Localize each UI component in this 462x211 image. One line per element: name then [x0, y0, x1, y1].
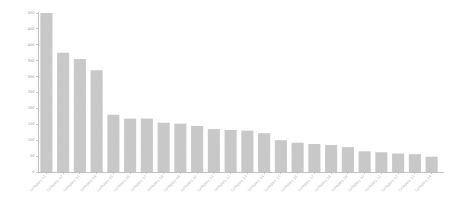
x-tick-label: Category 05 — [96, 174, 114, 192]
bar — [158, 123, 170, 172]
y-tick-label: 50 — [30, 154, 35, 158]
y-axis: 050100150200250300350400450500 — [28, 11, 38, 174]
y-tick-label: 0 — [32, 170, 35, 174]
x-tick-label: Category 02 — [46, 174, 64, 192]
bar — [275, 140, 287, 172]
x-tick-label: Category 19 — [331, 174, 349, 192]
x-axis — [38, 172, 444, 174]
x-tick-label: Category 20 — [347, 174, 365, 192]
bar — [426, 157, 438, 172]
bar — [292, 143, 304, 172]
x-tick-label: Category 16 — [280, 174, 298, 192]
bar — [208, 129, 220, 172]
bar — [191, 126, 203, 172]
x-tick-label: Category 08 — [146, 174, 164, 192]
bar — [325, 145, 337, 172]
bar — [124, 119, 136, 172]
x-tick-label: Category 15 — [264, 174, 282, 192]
y-tick-label: 200 — [28, 106, 36, 110]
y-tick-label: 300 — [28, 75, 36, 79]
bar — [225, 130, 237, 172]
y-tick-label: 150 — [28, 122, 36, 126]
bar — [141, 119, 153, 172]
x-tick-label: Category 23 — [398, 174, 416, 192]
bar — [258, 133, 270, 172]
x-tick-label: Category 07 — [130, 174, 148, 192]
bar — [40, 13, 52, 172]
x-tick-label: Category 22 — [381, 174, 399, 192]
x-tick-label: Category 03 — [63, 174, 81, 192]
x-tick-label: Category 24 — [414, 174, 433, 193]
bar — [308, 144, 320, 172]
x-tick-label: Category 01 — [29, 174, 47, 192]
x-tick-labels: Category 01Category 02Category 03Categor… — [29, 174, 433, 193]
bar — [91, 70, 103, 172]
bars-group — [40, 13, 437, 172]
bar — [107, 115, 119, 172]
bar — [57, 53, 69, 172]
chart-canvas: 050100150200250300350400450500 Category … — [0, 0, 462, 211]
bar — [375, 152, 387, 172]
bar-chart-figure: 050100150200250300350400450500 Category … — [0, 0, 462, 211]
bar — [174, 124, 186, 172]
x-tick-label: Category 12 — [213, 174, 231, 192]
x-tick-label: Category 09 — [163, 174, 181, 192]
bar — [241, 131, 253, 172]
x-tick-label: Category 11 — [197, 174, 215, 192]
y-tick-label: 350 — [28, 59, 36, 63]
bar — [359, 151, 371, 172]
y-tick-label: 500 — [28, 11, 36, 15]
x-tick-label: Category 10 — [180, 174, 198, 192]
x-tick-label: Category 13 — [230, 174, 248, 192]
x-tick-label: Category 18 — [314, 174, 332, 192]
y-tick-label: 400 — [28, 43, 36, 47]
y-tick-label: 250 — [28, 90, 36, 94]
x-tick-label: Category 06 — [113, 174, 131, 192]
bar — [74, 59, 86, 172]
x-tick-label: Category 17 — [297, 174, 315, 192]
y-tick-label: 450 — [28, 27, 36, 31]
bar — [409, 154, 421, 172]
y-tick-label: 100 — [28, 138, 36, 142]
bar — [342, 147, 354, 172]
bar — [392, 154, 404, 172]
x-tick-label: Category 21 — [364, 174, 382, 192]
